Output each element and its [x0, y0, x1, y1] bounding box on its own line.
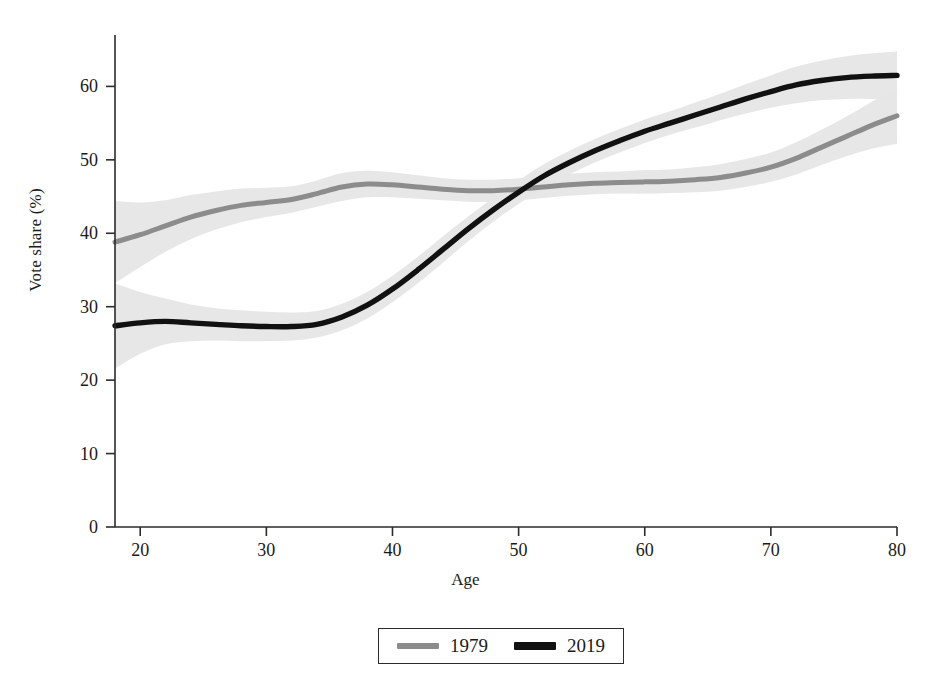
legend-item-2019: 2019: [514, 636, 605, 655]
x-tick-label: 20: [110, 541, 170, 559]
y-tick-label: 10: [44, 445, 98, 463]
y-tick-label: 30: [44, 298, 98, 316]
legend-swatch-1979: [397, 643, 439, 649]
legend-label: 1979: [450, 636, 488, 655]
y-tick-label: 40: [44, 224, 98, 242]
y-tick-label: 20: [44, 371, 98, 389]
legend-label: 2019: [567, 636, 605, 655]
x-tick-label: 70: [741, 541, 801, 559]
y-tick-label: 50: [44, 151, 98, 169]
y-tick-label: 60: [44, 77, 98, 95]
confidence-band-1979: [115, 88, 897, 283]
x-axis-title: Age: [0, 570, 931, 590]
x-tick-label: 50: [489, 541, 549, 559]
x-tick-label: 60: [615, 541, 675, 559]
chart-legend: 19792019: [378, 628, 624, 664]
y-axis-title: Vote share (%): [26, 160, 46, 320]
confidence-band-group: [115, 51, 897, 368]
axis-group: [106, 35, 897, 536]
x-tick-label: 40: [362, 541, 422, 559]
chart-figure: Vote share (%) Age 0102030405060 2030405…: [0, 0, 931, 681]
x-tick-label: 80: [867, 541, 927, 559]
legend-item-1979: 1979: [397, 636, 488, 655]
legend-swatch-2019: [514, 642, 556, 650]
x-tick-label: 30: [236, 541, 296, 559]
y-tick-label: 0: [44, 518, 98, 536]
